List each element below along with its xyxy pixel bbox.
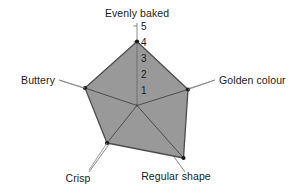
- data-point-evenly-baked: [135, 39, 139, 43]
- tick-label-4: 4: [141, 37, 147, 48]
- tick-label-2: 2: [141, 69, 147, 80]
- radar-chart-svg: 5 4 3 2 1 Evenly baked Golden colour Reg…: [0, 0, 296, 192]
- axis-label-evenly-baked: Evenly baked: [105, 7, 169, 19]
- data-point-regular-shape: [181, 156, 185, 160]
- radar-chart-container: 5 4 3 2 1 Evenly baked Golden colour Reg…: [0, 0, 296, 192]
- axis-label-crisp: Crisp: [65, 172, 90, 184]
- tick-label-1: 1: [141, 85, 147, 96]
- axis-label-regular-shape: Regular shape: [141, 170, 211, 182]
- axis-label-golden-colour: Golden colour: [219, 74, 286, 86]
- axis-label-buttery: Buttery: [21, 74, 56, 86]
- tick-label-3: 3: [141, 53, 147, 64]
- radar-centre-point: [136, 104, 138, 106]
- tick-label-5: 5: [141, 21, 147, 32]
